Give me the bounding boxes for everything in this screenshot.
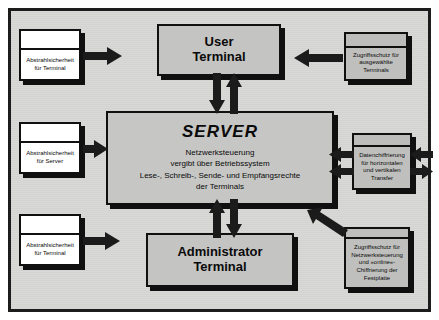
arrow-encryption-outward-lower [410,164,434,179]
server-description: Netzwerksteuerung vergibt über Betriebss… [140,147,301,191]
server-desc-line-3: Lese-, Schreib-, Sende- und Empfangsrech… [140,170,301,181]
user-terminal-line-1: User [205,35,234,50]
arrow-encryption-to-server-lower [329,164,355,179]
arrow-encryption-to-server-upper [329,147,355,162]
right-box-label-2: Zugriffsschutz für Netzwerksteuerung und… [346,239,408,287]
arrow-left-terminal-to-admin-terminal [83,232,121,250]
diagram-frame: Abstrahlsicherheit für Terminal Abstrahl… [8,8,431,312]
arrow-server-to-admin-terminal-down [226,199,242,239]
server-node[interactable]: SERVER Netzwerksteuerung vergibt über Be… [106,111,334,205]
left-box-terminal-shielding-top[interactable]: Abstrahlsicherheit für Terminal [19,29,81,81]
server-desc-line-2: vergibt über Betriebssystem [140,158,301,169]
arrow-server-to-user-terminal-up [226,73,242,115]
server-desc-line-1: Netzwerksteuerung [140,147,301,158]
box-header-strip [21,216,79,235]
server-desc-line-4: der Terminals [140,181,301,192]
arrow-encryption-outward-upper [410,147,434,162]
administrator-terminal-node[interactable]: Administrator Terminal [146,233,294,287]
right-box-label-0: Zugriffsschutz für ausgewählte Terminals [346,48,406,80]
arrow-user-terminal-to-server-down [209,73,225,115]
user-terminal-line-2: Terminal [192,50,245,65]
left-box-label-2: Abstrahlsicherheit für Terminal [21,235,79,264]
user-terminal-node[interactable]: User Terminal [157,24,281,76]
arrow-admin-terminal-to-server-up [209,199,225,239]
left-box-terminal-shielding-bottom[interactable]: Abstrahlsicherheit für Terminal [19,214,81,266]
arrow-network-protection-to-server [307,207,349,237]
right-box-terminal-access-protection[interactable]: Zugriffsschutz für ausgewählte Terminals [344,32,408,81]
box-header-strip [346,229,408,239]
box-header-strip [21,31,79,50]
box-header-strip [354,135,410,147]
box-header-strip [21,124,79,143]
right-box-label-1: Datenchiffrierung für horizontalen und v… [354,147,410,188]
diagram-canvas: Abstrahlsicherheit für Terminal Abstrahl… [0,0,439,320]
arrow-left-terminal-to-user-terminal [83,47,123,65]
left-box-label-1: Abstrahlsicherheit für Server [21,143,79,172]
right-box-data-encryption[interactable]: Datenchiffrierung für horizontalen und v… [352,133,412,190]
arrow-left-server-to-server [83,140,109,158]
admin-terminal-line-2: Terminal [193,260,246,275]
left-box-server-shielding[interactable]: Abstrahlsicherheit für Server [19,122,81,174]
server-title: SERVER [182,122,258,142]
box-header-strip [346,34,406,48]
right-box-network-access-protection[interactable]: Zugriffsschutz für Netzwerksteuerung und… [344,227,410,289]
arrow-access-protection-to-user-terminal [294,49,344,67]
admin-terminal-line-1: Administrator [177,245,262,260]
left-box-label-0: Abstrahlsicherheit für Terminal [21,50,79,79]
